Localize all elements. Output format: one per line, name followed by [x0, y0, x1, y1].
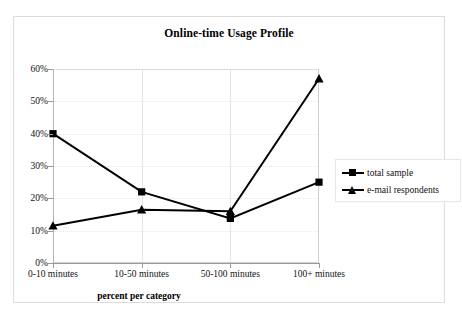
chart-title: Online-time Usage Profile	[14, 27, 444, 39]
y-axis-tick-mark	[48, 231, 53, 232]
x-axis-tick-label: 0-10 minutes	[28, 269, 78, 279]
x-axis-title: percent per category	[14, 291, 264, 301]
y-axis-tick-mark	[48, 166, 53, 167]
y-axis-tick-label: 20%	[16, 193, 48, 203]
y-axis-tick-label: 10%	[16, 226, 48, 236]
y-axis-tick-mark	[48, 134, 53, 135]
legend-label-email-respondents: e-mail respondents	[367, 185, 439, 195]
triangle-marker-icon	[342, 184, 364, 195]
gridline-horizontal	[54, 134, 318, 135]
gridline-vertical	[142, 70, 143, 262]
x-axis-tick-mark	[230, 263, 231, 268]
legend-item-total-sample[interactable]: total sample	[342, 164, 454, 181]
square-marker-icon	[342, 167, 364, 178]
y-axis-line	[53, 69, 54, 264]
chart-legend: total sample e-mail respondents	[335, 159, 461, 202]
y-axis-tick-label: 0%	[16, 258, 48, 268]
gridline-vertical	[230, 70, 231, 262]
chart-frame: Online-time Usage Profile 0%10%20%30%40%…	[13, 16, 445, 303]
x-axis-tick-mark	[142, 263, 143, 268]
y-axis-tick-mark	[48, 69, 53, 70]
legend-label-total-sample: total sample	[367, 168, 413, 178]
y-axis-tick-mark	[48, 198, 53, 199]
y-axis-tick-label: 40%	[16, 129, 48, 139]
gridline-horizontal	[54, 166, 318, 167]
x-axis-tick-label: 100+ minutes	[293, 269, 345, 279]
x-axis-line	[53, 263, 320, 264]
x-axis-tick-mark	[319, 263, 320, 268]
legend-item-email-respondents[interactable]: e-mail respondents	[342, 181, 454, 198]
x-axis-tick-mark	[53, 263, 54, 268]
x-axis-tick-label: 10-50 minutes	[114, 269, 169, 279]
x-axis-tick-label: 50-100 minutes	[201, 269, 260, 279]
y-axis-tick-label: 60%	[16, 64, 48, 74]
gridline-horizontal	[54, 101, 318, 102]
gridline-horizontal	[54, 69, 318, 70]
plot-area	[53, 69, 319, 263]
y-axis-tick-mark	[48, 101, 53, 102]
y-axis-tick-labels: 0%10%20%30%40%50%60%	[14, 17, 48, 302]
gridline-horizontal	[54, 231, 318, 232]
gridline-horizontal	[54, 198, 318, 199]
y-axis-tick-label: 50%	[16, 96, 48, 106]
y-axis-tick-label: 30%	[16, 161, 48, 171]
